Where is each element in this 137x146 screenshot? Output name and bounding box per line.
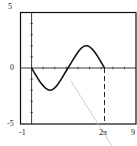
y-label-bottom: -5	[7, 120, 14, 128]
x-label-left: -1	[19, 129, 26, 137]
x-label-2pi: 2π	[99, 129, 107, 137]
y-label-top: 5	[8, 3, 12, 11]
x-label-right: 9	[131, 129, 135, 137]
sine-plot	[0, 0, 137, 146]
y-label-mid: 0	[10, 64, 14, 72]
